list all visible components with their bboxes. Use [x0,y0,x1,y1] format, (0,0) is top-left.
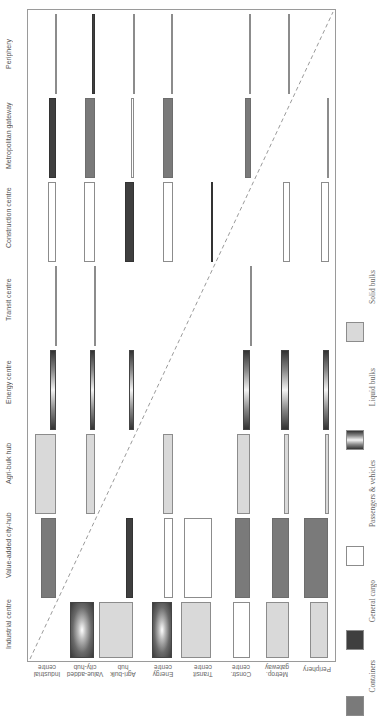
bar-transit-valueadded [184,518,212,598]
row-label-industrial-centre: Industrialcentre [28,664,66,678]
legend-label-liquid-bulks: Liquid bulks [368,368,377,406]
column-label-periphery: Periphery [5,14,19,94]
bar-energy-metrop [163,98,173,178]
bar-constr-industrial [233,602,250,658]
bar-periphery-agribulk [325,434,329,514]
bar-energy-agribulk [163,434,173,514]
bar-industrial-constr [48,182,56,262]
bar-valueadded-energy [90,350,95,430]
legend-item-liquid-bulks: Liquid bulks [344,360,378,458]
bar-metrop-transit [250,266,252,346]
bar-energy-constr [163,182,173,262]
bar-industrial-transit [55,266,57,346]
bar-constr-valueadded [235,518,250,598]
column-label-metropolitan-gateway: Metropolitan gateway [5,96,19,176]
bar-transit-constr [211,182,213,262]
column-label-value-added-city-hub: Value-added city-hub [5,505,19,585]
row-label-metrop-gateway: Metrop.gateway [258,664,296,678]
legend-label-passengers-vehicles: Passengers & vehicles [368,460,377,527]
legend-label-solid-bulks: Solid bulks [368,270,377,304]
row-label-agri-bulk-hub: Agri-bulkhub [104,664,142,678]
bar-industrial-periphery [55,14,57,94]
bar-periphery-metrop [327,98,329,178]
bar-constr-energy [243,350,250,430]
legend: Containers General cargo Passengers & ve… [344,300,378,718]
bar-valueadded-agribulk [86,434,95,514]
bar-industrial-metrop [49,98,56,178]
row-label-transit-centre: Transitcentre [184,664,222,678]
bar-metrop-agribulk [284,434,289,514]
bar-metrop-energy [281,350,289,430]
bar-valueadded-metrop [85,98,95,178]
bar-industrial-agribulk [35,434,56,514]
bar-constr-periphery [249,14,251,94]
legend-label-containers: Containers [368,660,377,693]
bar-valueadded-transit [94,266,96,346]
bar-periphery-valueadded [304,518,328,598]
bar-industrial-valueadded [41,518,56,598]
bar-transit-industrial [181,602,211,658]
bar-metrop-valueadded [272,518,289,598]
legend-item-solid-bulks: Solid bulks [344,220,378,350]
plot-frame [27,9,336,662]
row-label-constr-centre: Constr.centre [222,664,260,678]
bar-energy-periphery [171,14,173,94]
legend-item-passengers-vehicles: Passengers & vehicles [344,460,378,575]
legend-swatch-solid-bulks [346,322,364,342]
bar-agribulk-energy [129,350,134,430]
legend-label-general-cargo: General cargo [368,580,377,622]
column-label-industrial-centre: Industrial centre [5,586,19,662]
bar-industrial-energy [50,350,56,430]
matrix-chart: Industrial centre Value-added city-hub A… [0,0,383,718]
legend-swatch-passengers-vehicles [346,546,364,566]
bar-periphery-energy [323,350,329,430]
bar-agribulk-metrop [131,98,134,178]
legend-item-general-cargo: General cargo [344,578,378,656]
bar-valueadded-periphery [92,14,95,94]
row-label-value-added-city-hub: Value-addedcity-hub [66,664,104,678]
column-label-transit-centre: Transit centre [5,260,19,340]
column-label-construction-centre: Construction centre [5,178,19,258]
legend-swatch-liquid-bulks [346,430,364,450]
row-label-periphery: Periphery [298,666,336,673]
bar-energy-valueadded-passengers [164,518,173,598]
legend-item-containers: Containers [344,660,378,718]
bar-energy-industrial [152,602,172,658]
column-label-energy-centre: Energy centre [5,342,19,422]
bar-periphery-industrial [310,602,328,658]
bar-metrop-industrial [266,602,289,658]
bar-metrop-periphery [288,14,290,94]
bar-constr-metrop [245,98,251,178]
legend-swatch-general-cargo [346,630,364,650]
bar-valueadded-constr [84,182,95,262]
bar-periphery-constr [321,182,329,262]
bar-agribulk-industrial [99,602,133,658]
bar-agribulk-constr [125,182,134,262]
bar-valueadded-industrial [70,602,94,658]
bar-energy-valueadded-general [126,518,133,598]
column-label-agri-bulk-hub: Agri-bulk hub [5,423,19,503]
legend-swatch-containers [346,696,364,716]
bar-constr-agribulk [237,434,250,514]
bar-metrop-constr [283,182,290,262]
bar-agribulk-periphery [133,14,135,94]
row-label-energy-centre: Energycentre [144,664,182,678]
